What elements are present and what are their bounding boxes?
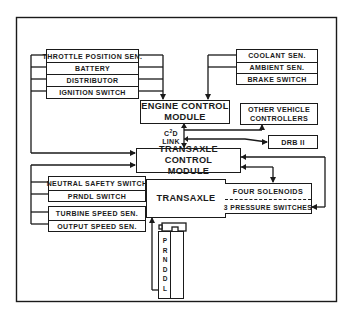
ecm-label-line1: ENGINE CONTROL	[141, 101, 228, 112]
transaxle-control-module: TRANSAXLE CONTROL MODULE	[136, 148, 241, 173]
ecm-label-line2: MODULE	[164, 112, 206, 123]
gear-n: N	[159, 255, 171, 265]
gear-r: R	[159, 246, 171, 256]
transaxle-label: TRANSAXLE	[157, 193, 216, 204]
diagram-canvas: THROTTLE POSITION SEN. BATTERY DISTRIBUT…	[0, 0, 352, 313]
gear-d: D	[159, 265, 171, 275]
battery: BATTERY	[47, 62, 138, 74]
ambient-sensor: AMBIENT SEN.	[237, 62, 317, 74]
engine-control-module: ENGINE CONTROL MODULE	[140, 100, 230, 124]
coolant-sensor: COOLANT SEN.	[237, 50, 317, 62]
transaxle-speed-sensors: TURBINE SPEED SEN. OUTPUT SPEED SEN.	[48, 206, 146, 232]
ovc-label-line2: CONTROLLERS	[250, 114, 308, 123]
output-speed-sensor: OUTPUT SPEED SEN.	[49, 220, 145, 233]
gear-d2: D	[159, 274, 171, 284]
other-vehicle-controllers: OTHER VEHICLE CONTROLLERS	[240, 103, 318, 125]
engine-input-sensors-right: COOLANT SEN. AMBIENT SEN. BRAKE SWITCH	[236, 49, 318, 85]
tcm-label-line1: TRANSAXLE CONTROL	[137, 144, 240, 166]
gear-positions: P R N D D L	[159, 236, 171, 294]
solenoids-and-pressure-switches: FOUR SOLENOIDS 3 PRESSURE SWITCHES	[225, 183, 312, 214]
ovc-label-line1: OTHER VEHICLE	[248, 105, 310, 114]
gear-p: P	[159, 236, 171, 246]
turbine-speed-sensor: TURBINE SPEED SEN.	[49, 207, 145, 220]
brake-switch: BRAKE SWITCH	[237, 73, 317, 85]
transaxle-input-switches: NEUTRAL SAFETY SWITCH PRNDL SWITCH	[48, 176, 146, 202]
drb-label: DRB II	[281, 137, 304, 148]
gear-selector: P R N D D L	[158, 231, 184, 299]
gear-l: L	[159, 284, 171, 294]
pressure-switches: 3 PRESSURE SWITCHES	[225, 200, 311, 214]
tcm-label-line2: MODULE	[168, 166, 210, 177]
distributor: DISTRIBUTOR	[47, 74, 138, 86]
drb-ii: DRB II	[268, 135, 318, 149]
throttle-position-sensor: THROTTLE POSITION SEN.	[47, 50, 138, 62]
transaxle: TRANSAXLE	[146, 179, 226, 218]
c2d-d: D	[173, 130, 178, 137]
ignition-switch: IGNITION SWITCH	[47, 86, 138, 98]
engine-input-sensors-left: THROTTLE POSITION SEN. BATTERY DISTRIBUT…	[46, 49, 139, 99]
four-solenoids: FOUR SOLENOIDS	[225, 184, 311, 199]
prndl-switch: PRNDL SWITCH	[49, 190, 145, 203]
neutral-safety-switch: NEUTRAL SAFETY SWITCH	[49, 177, 145, 190]
